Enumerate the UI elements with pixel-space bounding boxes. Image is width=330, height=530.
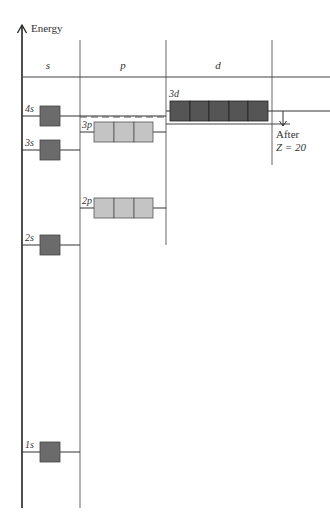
level-label-2p: 2p (82, 195, 92, 206)
column-label-d: d (215, 59, 221, 71)
level-2p (80, 198, 166, 218)
annotation-after: After (276, 128, 300, 140)
orbital-energy-diagram: Energy s p d 4s 3s 3p 2p 2s (0, 0, 330, 530)
orbital-box-2s (40, 235, 60, 255)
orbital-box-4s (40, 106, 60, 126)
level-label-3p: 3p (81, 119, 92, 130)
energy-axis (18, 25, 27, 508)
level-3d (166, 101, 330, 121)
axis-label-energy: Energy (31, 22, 63, 34)
level-label-3d: 3d (168, 88, 180, 99)
column-label-s: s (46, 59, 50, 71)
level-3p (80, 122, 166, 142)
level-label-2s: 2s (25, 232, 34, 243)
level-label-1s: 1s (25, 439, 34, 450)
annotation-z20: Z = 20 (276, 141, 307, 153)
level-label-4s: 4s (25, 103, 34, 114)
orbital-box-3s (40, 140, 60, 160)
level-label-3s: 3s (24, 137, 34, 148)
column-label-p: p (119, 59, 126, 71)
orbital-box-1s (40, 442, 60, 462)
